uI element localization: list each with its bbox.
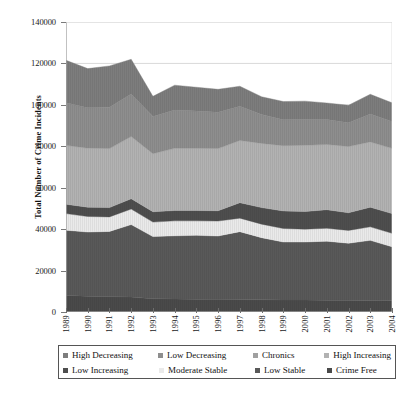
legend-item-moderate-stable[interactable]: Moderate Stable <box>159 366 255 375</box>
x-tick-mark <box>349 308 350 313</box>
y-tick-label: 120000 <box>31 58 56 68</box>
legend-label: Moderate Stable <box>168 366 227 375</box>
legend-label: Low Decreasing <box>167 351 226 360</box>
legend-swatch-icon <box>158 353 163 358</box>
x-tick-mark <box>109 308 110 313</box>
x-tick-mark <box>240 308 241 313</box>
stacked-area-svg <box>66 22 392 312</box>
x-tick-label: 1989 <box>62 315 71 333</box>
legend-item-high-decreasing[interactable]: High Decreasing <box>63 351 158 360</box>
legend-label: High Increasing <box>333 351 391 360</box>
x-tick-label: 1997 <box>236 315 245 333</box>
legend-swatch-icon <box>63 368 68 373</box>
x-tick-label: 1994 <box>171 315 180 333</box>
x-tick-label: 2001 <box>323 315 332 333</box>
y-tick-label: 60000 <box>35 183 56 193</box>
x-tick-mark <box>175 308 176 313</box>
crime-incidents-stacked-area-chart: Total Number of Crime Incidents 02000040… <box>0 0 411 393</box>
x-tick-label: 2000 <box>301 315 310 333</box>
legend-label: Low Increasing <box>72 366 128 375</box>
x-tick-label: 1999 <box>279 315 288 333</box>
y-tick-label: 40000 <box>35 224 56 234</box>
legend-swatch-icon <box>255 368 260 373</box>
x-tick-mark <box>305 308 306 313</box>
legend-swatch-icon <box>253 353 258 358</box>
x-tick-label: 1998 <box>258 315 267 333</box>
x-tick-label: 1992 <box>127 315 136 333</box>
x-tick-label: 1990 <box>84 315 93 333</box>
x-tick-mark <box>283 308 284 313</box>
legend-row-2: Low IncreasingModerate StableLow StableC… <box>63 363 391 378</box>
y-axis-tick-labels: 020000400006000080000100000120000140000 <box>0 0 66 320</box>
legend-item-crime-free[interactable]: Crime Free <box>327 366 377 375</box>
legend-row-1: High DecreasingLow DecreasingChronicsHig… <box>63 348 391 363</box>
legend-item-chronics[interactable]: Chronics <box>253 351 324 360</box>
legend-label: Chronics <box>262 351 295 360</box>
x-tick-label: 2003 <box>366 315 375 333</box>
legend-item-low-increasing[interactable]: Low Increasing <box>63 366 159 375</box>
y-tick-label: 100000 <box>31 100 56 110</box>
legend-swatch-icon <box>327 368 332 373</box>
x-tick-mark <box>370 308 371 313</box>
legend-item-high-increasing[interactable]: High Increasing <box>324 351 391 360</box>
x-tick-mark <box>88 308 89 313</box>
legend-item-low-decreasing[interactable]: Low Decreasing <box>158 351 253 360</box>
x-tick-mark <box>196 308 197 313</box>
y-tick-label: 80000 <box>35 141 56 151</box>
x-tick-label: 1993 <box>149 315 158 333</box>
x-tick-mark <box>262 308 263 313</box>
x-tick-label: 1996 <box>214 315 223 333</box>
legend-label: Crime Free <box>336 366 377 375</box>
x-tick-label: 1995 <box>192 315 201 333</box>
legend-swatch-icon <box>324 353 329 358</box>
x-tick-mark <box>131 308 132 313</box>
legend-item-low-stable[interactable]: Low Stable <box>255 366 327 375</box>
x-tick-label: 2002 <box>345 315 354 333</box>
y-tick-label: 0 <box>52 307 56 317</box>
x-tick-mark <box>153 308 154 313</box>
legend-label: High Decreasing <box>72 351 133 360</box>
legend-label: Low Stable <box>264 366 305 375</box>
x-tick-label: 1991 <box>105 315 114 333</box>
y-tick-label: 140000 <box>31 17 56 27</box>
x-tick-mark <box>327 308 328 313</box>
x-tick-label: 2004 <box>388 315 397 333</box>
y-tick-label: 20000 <box>35 266 56 276</box>
chart-legend: High DecreasingLow DecreasingChronicsHig… <box>58 345 396 379</box>
legend-swatch-icon <box>159 368 164 373</box>
x-tick-mark <box>392 308 393 313</box>
legend-swatch-icon <box>63 353 68 358</box>
area-band-high-increasing <box>66 137 392 214</box>
plot-area <box>66 22 392 312</box>
x-tick-mark <box>66 308 67 313</box>
x-tick-mark <box>218 308 219 313</box>
